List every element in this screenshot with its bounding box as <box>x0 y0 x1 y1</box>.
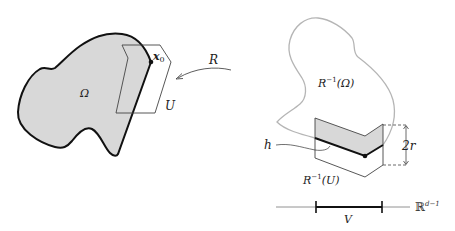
left-panel: x0 Ω U <box>18 34 176 156</box>
point-x0-label: x0 <box>152 50 165 64</box>
h-pointer <box>276 144 330 150</box>
u-label: U <box>165 99 176 113</box>
graph-point <box>363 154 368 159</box>
h-label: h <box>264 138 272 152</box>
omega-label: Ω <box>79 87 89 100</box>
axis: V ℝd−1 <box>276 200 440 226</box>
height-label: 2r <box>401 139 417 153</box>
map-label: R <box>208 53 218 67</box>
map-r: R <box>176 53 231 79</box>
right-panel: h 2r R−1(Ω) R−1(U) <box>264 18 417 187</box>
space-label: ℝd−1 <box>415 200 440 214</box>
diagram-canvas: x0 Ω U R h 2r R−1(Ω) R−1(U) V ℝd−1 <box>0 0 455 231</box>
interval-label: V <box>344 213 353 226</box>
map-arrow <box>178 68 231 78</box>
preimage-u-label: R−1(U) <box>302 173 339 187</box>
preimage-omega-label: R−1(Ω) <box>317 76 354 90</box>
